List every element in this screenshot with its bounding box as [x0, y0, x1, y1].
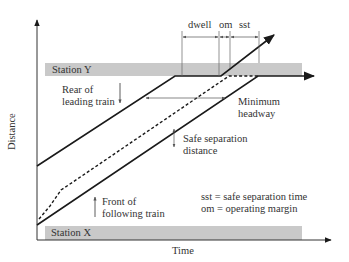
diagram-graphics: [0, 0, 349, 262]
min-headway-label-2: headway: [238, 108, 275, 120]
sst-label: sst: [239, 19, 250, 31]
safe-sep-label-1: Safe separation: [183, 133, 247, 145]
legend-om: om = operating margin: [201, 203, 297, 215]
legend-sst: sst = safe separation time: [201, 191, 307, 203]
min-headway-label-1: Minimum: [238, 96, 280, 108]
safe-sep-label-2: distance: [183, 145, 217, 157]
dwell-label: dwell: [188, 19, 211, 31]
rear-leading-label-2: leading train: [62, 96, 115, 108]
front-following-label-2: following train: [102, 208, 165, 220]
station-y-label: Station Y: [52, 64, 92, 76]
x-axis-label: Time: [172, 245, 194, 257]
station-x-label: Station X: [51, 227, 91, 239]
rear-leading-label-1: Rear of: [62, 84, 93, 96]
front-following-label-1: Front of: [102, 196, 136, 208]
y-axis-label: Distance: [6, 113, 17, 150]
time-distance-diagram: Station Y Station X dwell om sst Rear of…: [0, 0, 349, 262]
om-label: om: [219, 19, 232, 31]
